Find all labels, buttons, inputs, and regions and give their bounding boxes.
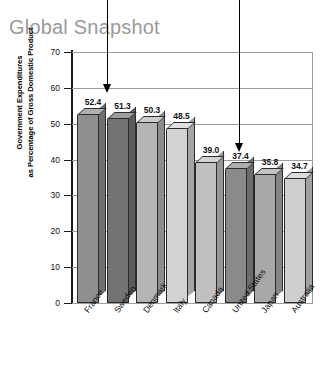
chart-canvas: Global Snapshot Government Expenditures … [0,0,320,385]
bar-italy [166,129,196,303]
y-tick-label-70: 70 [40,47,60,57]
bar-side-face [128,107,136,297]
y-axis-title-line1: Government Expenditures [15,0,26,210]
bar-side-face [157,110,165,297]
y-tick-mark-60 [64,88,72,89]
y-axis-tick-labels: 010203040506070 [38,0,60,385]
y-tick-mark-20 [64,231,72,232]
arrow-head-icon [103,84,111,93]
y-tick-mark-30 [64,195,72,196]
bar-front-face [225,169,247,303]
y-tick-label-10: 10 [40,262,60,272]
y-tick-label-20: 20 [40,226,60,236]
bar-value-label-united-states: 37.4 [226,151,256,161]
bar-value-label-canada: 39.0 [196,145,226,155]
bar-value-label-australia: 34.7 [285,161,315,171]
y-tick-label-50: 50 [40,119,60,129]
y-tick-label-40: 40 [40,155,60,165]
bar-value-label-italy: 48.5 [167,111,197,121]
y-tick-label-60: 60 [40,83,60,93]
bar-value-label-japan: 35.8 [255,157,285,167]
bar-value-label-sweden: 51.3 [108,101,138,111]
y-tick-mark-10 [64,267,72,268]
bar-front-face [166,129,188,303]
bar-front-face [77,115,99,303]
bar-front-face [195,163,217,303]
arrow-line [239,0,240,144]
bar-front-face [107,119,129,303]
gridline-0 [72,303,313,304]
bar-side-face [187,117,195,297]
bar-side-face [98,103,106,297]
y-tick-label-0: 0 [40,298,60,308]
bar-front-face [136,123,158,303]
y-tick-mark-50 [64,124,72,125]
y-tick-mark-0 [64,303,72,304]
bar-value-label-france: 52.4 [78,97,108,107]
bar-value-label-denmark: 50.3 [137,105,167,115]
bar-side-face [305,166,313,297]
y-tick-mark-70 [64,52,72,53]
y-axis-title-line2: as Percentage of Gross Domestic Product [26,0,37,210]
bar-side-face [216,151,224,297]
bar-sweden [107,119,137,303]
bar-canada [195,163,225,303]
bar-denmark [136,123,166,303]
arrow-head-icon [235,143,243,152]
y-tick-label-30: 30 [40,190,60,200]
y-axis-title: Government Expenditures as Percentage of… [15,0,36,210]
arrow-line [107,0,108,85]
bar-side-face [275,162,283,297]
y-tick-mark-40 [64,160,72,161]
bar-france [77,115,107,303]
bar-front-face [284,179,306,303]
